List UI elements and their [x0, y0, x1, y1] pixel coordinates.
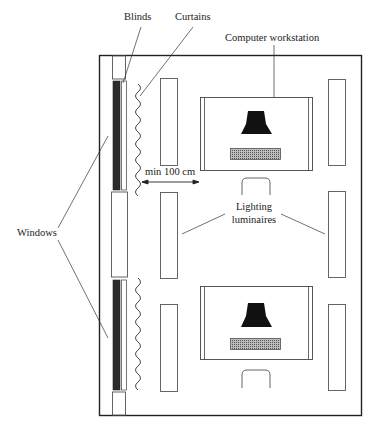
luminaire [329, 80, 346, 166]
luminaire [161, 305, 178, 392]
luminaires-right [329, 80, 346, 391]
label-windows: Windows [17, 227, 57, 238]
luminaire [161, 193, 178, 279]
blind-dark-lower [113, 280, 120, 390]
window-lower [113, 280, 127, 390]
workstation-lower [201, 287, 313, 389]
leader-windows-upper [58, 136, 108, 228]
luminaire [329, 192, 346, 278]
blind-dark-upper [113, 81, 120, 190]
label-lighting-line2: luminaires [232, 214, 276, 225]
wall-frame-top [113, 56, 126, 79]
label-lighting-luminaires: Lighting luminaires [226, 200, 282, 226]
wall-pillar-middle [112, 192, 128, 277]
keyboard-icon [231, 339, 281, 350]
chair-icon [242, 370, 270, 388]
chair-icon [242, 178, 270, 195]
label-min-distance: min 100 cm [145, 166, 195, 177]
label-computer-workstation: Computer workstation [225, 32, 319, 43]
label-curtains: Curtains [175, 11, 211, 22]
label-blinds: Blinds [124, 11, 151, 22]
workstation-upper [201, 98, 313, 196]
curtain-lower [136, 278, 141, 390]
leader-windows-lower [58, 240, 108, 338]
blind-light-lower [122, 280, 127, 390]
label-lighting-line1: Lighting [236, 201, 272, 212]
window-upper [113, 81, 127, 190]
luminaire [329, 305, 346, 391]
leader-luminaire-right [281, 214, 325, 234]
keyboard-icon [231, 149, 281, 160]
curtain-upper [136, 84, 141, 196]
luminaire [161, 79, 178, 166]
luminaires-left [161, 79, 178, 392]
min-distance-dimension [142, 180, 199, 184]
blind-light-upper [122, 81, 127, 190]
office-floor-plan [0, 0, 375, 428]
leader-luminaire-left [182, 214, 225, 234]
wall-frame-bottom [113, 392, 126, 415]
